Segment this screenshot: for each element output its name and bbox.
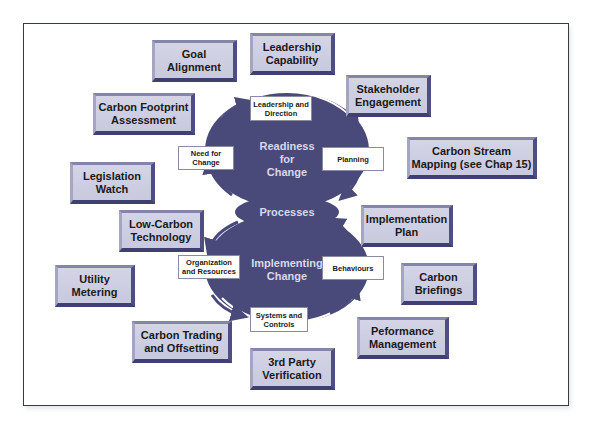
label-planning: Planning [322, 147, 384, 171]
box-utility-metering: Utility Metering [55, 265, 135, 307]
label-behaviours: Behaviours [322, 256, 384, 280]
box-low-carbon-technology: Low-Carbon Technology [119, 210, 204, 252]
box-goal-alignment: Goal Alignment [152, 40, 237, 82]
label-organization-resources: Organization and Resources [178, 255, 240, 279]
box-carbon-briefings: Carbon Briefings [401, 263, 477, 305]
readiness-for-change-label: Readiness for Change [247, 140, 327, 179]
box-peformance-management: Peformance Management [357, 317, 449, 359]
box-carbon-footprint-assessment: Carbon Footprint Assessment [93, 93, 195, 135]
box-carbon-trading-offsetting: Carbon Trading and Offsetting [132, 321, 232, 363]
box-stakeholder-engagement: Stakeholder Engagement [346, 75, 431, 117]
label-systems-controls: Systems and Controls [250, 307, 308, 332]
label-leadership-direction: Leadership and Direction [250, 96, 312, 121]
box-legislation-watch: Legislation Watch [70, 162, 155, 204]
box-implementation-plan: Implementation Plan [361, 205, 453, 247]
box-leadership-capability: Leadership Capability [250, 33, 335, 75]
box-carbon-stream-mapping: Carbon Stream Mapping (see Chap 15) [407, 137, 537, 179]
processes-label: Processes [247, 206, 327, 219]
box-third-party-verification: 3rd Party Verification [250, 348, 335, 390]
label-need-for-change: Need for Change [178, 146, 234, 170]
